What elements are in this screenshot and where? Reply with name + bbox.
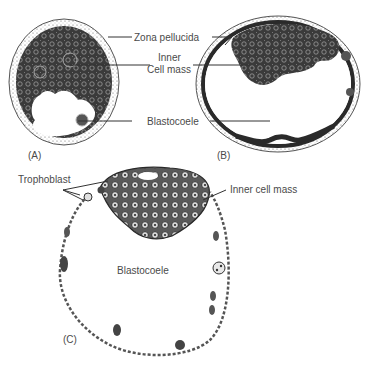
- trophoblast-cell: [213, 262, 225, 274]
- label-blastocoele-ab: Blastocoele: [147, 116, 199, 127]
- trophoblast-cell: [210, 291, 216, 301]
- trophoblast-cell: [98, 187, 105, 194]
- label-inner-cell-mass-line1: Inner: [158, 52, 181, 63]
- panel-b-blastocyst: [196, 16, 360, 152]
- label-zona-pellucida: Zona pellucida: [134, 32, 199, 43]
- trophoblast-cell: [60, 256, 68, 272]
- panel-label-a: (A): [28, 150, 41, 161]
- panel-a-blastocyst: [9, 19, 119, 145]
- diagram-artwork: [0, 0, 380, 375]
- label-inner-cell-mass-c: Inner cell mass: [230, 184, 297, 195]
- trophoblast-cell: [213, 231, 219, 241]
- trophoblast-cell: [64, 227, 70, 237]
- trophoblast-cell: [113, 324, 121, 336]
- panel-label-b: (B): [217, 150, 230, 161]
- trophoblast-cell: [84, 193, 92, 201]
- label-inner-cell-mass-line2: Cell mass: [147, 64, 191, 75]
- label-trophoblast: Trophoblast: [18, 174, 70, 185]
- blastocyst-diagram: Zona pellucida Inner Cell mass Blastocoe…: [0, 0, 380, 375]
- panel-label-c: (C): [63, 334, 77, 345]
- trophoblast-cell: [209, 305, 215, 315]
- trophoblast-cell: [175, 340, 185, 350]
- panel-c-blastocyst: [60, 167, 229, 355]
- label-blastocoele-c: Blastocoele: [117, 265, 169, 276]
